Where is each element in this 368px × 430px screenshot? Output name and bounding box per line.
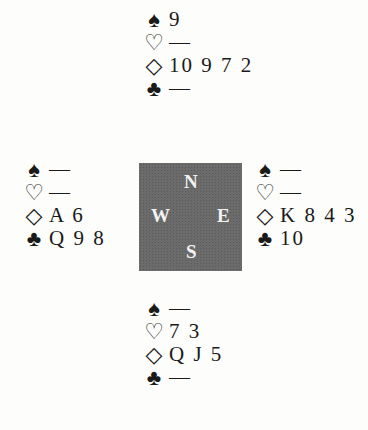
- east-clubs-row: ♣ 10: [252, 227, 356, 250]
- west-hearts-row: ♡ —: [21, 181, 106, 204]
- north-diamonds-cards: 10 9 7 2: [167, 54, 253, 77]
- west-clubs-cards: Q 9 8: [47, 227, 106, 250]
- east-hearts-cards: —: [278, 181, 303, 204]
- east-spades-cards: —: [278, 158, 303, 181]
- compass-north-label: N: [184, 171, 198, 193]
- north-hand: ♠ 9 ♡ — ◇ 10 9 7 2 ♣ —: [141, 8, 253, 100]
- north-clubs-row: ♣ —: [141, 77, 253, 100]
- diamond-icon: ◇: [141, 343, 167, 366]
- compass-east-label: E: [217, 205, 230, 227]
- west-diamonds-cards: A 6: [47, 204, 85, 227]
- spade-icon: ♠: [21, 158, 47, 181]
- north-spades-row: ♠ 9: [141, 8, 253, 31]
- east-hearts-row: ♡ —: [252, 181, 356, 204]
- south-spades-cards: —: [167, 297, 192, 320]
- club-icon: ♣: [141, 366, 167, 389]
- diamond-icon: ◇: [21, 204, 47, 227]
- north-clubs-cards: —: [167, 77, 192, 100]
- east-clubs-cards: 10: [278, 227, 305, 250]
- south-spades-row: ♠ —: [141, 297, 223, 320]
- heart-icon: ♡: [21, 181, 47, 204]
- north-hearts-row: ♡ —: [141, 31, 253, 54]
- club-icon: ♣: [252, 227, 278, 250]
- west-spades-row: ♠ —: [21, 158, 106, 181]
- compass-box: N W E S: [139, 163, 242, 271]
- compass-west-label: W: [151, 205, 170, 227]
- west-hand: ♠ — ♡ — ◇ A 6 ♣ Q 9 8: [21, 158, 106, 250]
- heart-icon: ♡: [252, 181, 278, 204]
- north-hearts-cards: —: [167, 31, 192, 54]
- south-diamonds-cards: Q J 5: [167, 343, 223, 366]
- east-diamonds-row: ◇ K 8 4 3: [252, 204, 356, 227]
- south-hand: ♠ — ♡ 7 3 ◇ Q J 5 ♣ —: [141, 297, 223, 389]
- spade-icon: ♠: [141, 297, 167, 320]
- east-hand: ♠ — ♡ — ◇ K 8 4 3 ♣ 10: [252, 158, 356, 250]
- south-hearts-row: ♡ 7 3: [141, 320, 223, 343]
- south-hearts-cards: 7 3: [167, 320, 201, 343]
- west-spades-cards: —: [47, 158, 72, 181]
- south-clubs-cards: —: [167, 366, 192, 389]
- spade-icon: ♠: [252, 158, 278, 181]
- diamond-icon: ◇: [252, 204, 278, 227]
- club-icon: ♣: [141, 77, 167, 100]
- east-spades-row: ♠ —: [252, 158, 356, 181]
- west-diamonds-row: ◇ A 6: [21, 204, 106, 227]
- east-diamonds-cards: K 8 4 3: [278, 204, 356, 227]
- west-hearts-cards: —: [47, 181, 72, 204]
- spade-icon: ♠: [141, 8, 167, 31]
- heart-icon: ♡: [141, 31, 167, 54]
- heart-icon: ♡: [141, 320, 167, 343]
- north-spades-cards: 9: [167, 8, 182, 31]
- club-icon: ♣: [21, 227, 47, 250]
- south-diamonds-row: ◇ Q J 5: [141, 343, 223, 366]
- compass-south-label: S: [186, 241, 197, 263]
- diamond-icon: ◇: [141, 54, 167, 77]
- north-diamonds-row: ◇ 10 9 7 2: [141, 54, 253, 77]
- west-clubs-row: ♣ Q 9 8: [21, 227, 106, 250]
- south-clubs-row: ♣ —: [141, 366, 223, 389]
